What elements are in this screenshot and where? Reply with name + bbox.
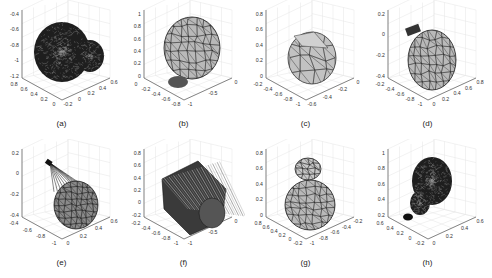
x-tick-label: -0.2: [142, 86, 151, 92]
x-tick-label: -1: [52, 240, 57, 246]
y-tick-label: 0.8: [476, 79, 483, 85]
x-tick-label: 0.4: [386, 225, 393, 231]
y-tick-label: -0.8: [319, 235, 328, 241]
x-tick-label: -0.4: [386, 86, 395, 92]
caption-a: (a): [0, 119, 123, 128]
caption-h: (h): [366, 258, 489, 267]
y-tick-label: 0.6: [476, 218, 483, 224]
y-tick-label: -0.5: [209, 229, 218, 235]
y-tick-label: -0.4: [342, 224, 351, 230]
x-tick-label: -0.2: [254, 81, 263, 87]
y-tick-label: -1: [310, 240, 315, 246]
y-tick-label: 0: [357, 79, 360, 85]
x-tick-label: 0.2: [40, 96, 47, 102]
z-tick-label: 0: [382, 31, 385, 37]
x-tick-label: -0.2: [294, 240, 303, 246]
x-tick-label: -0.4: [10, 220, 19, 226]
y-tick-label: 0.4: [95, 225, 102, 231]
subfigure-g: 0.80.60.40.200.80.60.40.20-0.2-1-0.8-0.6…: [244, 139, 367, 278]
x-tick-label: -0.8: [172, 101, 181, 107]
x-tick-label: 0.8: [10, 81, 17, 87]
x-tick-label: -0.2: [132, 220, 141, 226]
z-tick-label: 0.6: [256, 26, 263, 32]
y-tick-label: -1: [188, 101, 193, 107]
z-tick-label: 0.8: [256, 150, 263, 156]
cylinder-mesh: [162, 161, 245, 235]
x-tick-label: 0.6: [262, 224, 269, 230]
caption-g: (g): [244, 258, 367, 267]
z-tick-label: 0: [260, 212, 263, 218]
z-tick-label: -1: [14, 57, 19, 63]
z-tick-label: 0.4: [256, 42, 263, 48]
y-tick-label: -0.2: [64, 101, 73, 107]
z-tick-label: 0.8: [134, 23, 141, 29]
x-tick-label: 0.8: [254, 220, 261, 226]
y-tick-label: -0.2: [354, 218, 363, 224]
z-tick-label: 0.4: [378, 196, 385, 202]
dense-mesh: [76, 40, 105, 72]
x-tick-label: -0.8: [36, 233, 45, 239]
y-tick-label: 0: [78, 96, 81, 102]
x-tick-label: -0.4: [152, 91, 161, 97]
x-tick-label: -0.2: [416, 240, 425, 246]
z-tick-label: -0.4: [10, 11, 19, 17]
z-tick-label: 0.6: [256, 165, 263, 171]
y-tick-label: 0: [235, 79, 238, 85]
z-tick-label: 0.2: [256, 57, 263, 63]
x-tick-label: -1: [418, 101, 423, 107]
y-tick-label: -0.2: [338, 86, 347, 92]
x-tick-label: -0.8: [406, 96, 415, 102]
z-tick-label: 0.4: [256, 181, 263, 187]
z-tick-label: -0.4: [10, 212, 19, 218]
x-tick-label: -0.6: [274, 91, 283, 97]
y-tick-label: 0.4: [461, 225, 468, 231]
y-tick-label: 0: [235, 218, 238, 224]
caption-e: (e): [0, 258, 123, 267]
caption-b: (b): [122, 119, 245, 128]
mesh-tip: [403, 214, 413, 221]
z-tick-label: 1: [382, 150, 385, 156]
y-tick-label: 0.6: [110, 79, 117, 85]
subfigure-a: -0.4-0.6-0.8-1-1.20.80.60.40.20-0.200.20…: [0, 0, 123, 139]
y-tick-label: 0: [433, 101, 436, 107]
x-tick-label: 0.6: [20, 86, 27, 92]
y-tick-label: 0.2: [80, 233, 87, 239]
z-tick-label: 0.2: [256, 196, 263, 202]
y-tick-label: 0.2: [87, 90, 94, 96]
z-tick-label: 1: [138, 11, 141, 17]
y-tick-label: 0.4: [453, 90, 460, 96]
z-tick-label: 0: [260, 73, 263, 79]
z-tick-label: 0: [16, 170, 19, 176]
x-tick-label: -0.4: [142, 225, 151, 231]
x-tick-label: -0.6: [23, 227, 32, 233]
subfigure-e: 0.20-0.2-0.4-0.4-0.6-0.8-100.20.40.6(e): [0, 139, 123, 278]
z-tick-label: 0.8: [378, 165, 385, 171]
x-tick-label: 0: [53, 101, 56, 107]
y-tick-label: -0.6: [331, 229, 340, 235]
z-tick-label: 0.2: [378, 11, 385, 17]
z-tick-label: -0.2: [132, 212, 141, 218]
z-tick-label: 0.6: [134, 162, 141, 168]
x-tick-label: 0: [135, 81, 138, 87]
y-tick-label: -0.4: [323, 94, 332, 100]
x-tick-label: -0.6: [396, 91, 405, 97]
y-tick-label: 0.2: [446, 233, 453, 239]
y-tick-label: 0: [67, 240, 70, 246]
x-tick-label: 0.4: [30, 91, 37, 97]
y-tick-label: -0.5: [209, 90, 218, 96]
x-tick-label: 0.2: [396, 230, 403, 236]
z-tick-label: 0: [138, 199, 141, 205]
subfigure-h: 10.80.60.40.20.60.40.20-0.200.20.40.6(h): [366, 139, 489, 278]
subfigure-d: 0.20-0.2-0.4-0.2-0.4-0.6-0.8-100.20.40.6…: [366, 0, 489, 139]
z-tick-label: -0.4: [376, 73, 385, 79]
dense-mesh: [410, 191, 430, 215]
subfigure-b: 10.80.60.40.200-0.2-0.4-0.6-0.8-1-0.50(b…: [122, 0, 245, 139]
x-tick-label: 0.2: [278, 232, 285, 238]
x-tick-label: -0.4: [264, 86, 273, 92]
mesh-surface: [294, 157, 322, 181]
mesh-cap: [405, 24, 421, 36]
y-tick-label: -0.6: [308, 101, 317, 107]
x-tick-label: -0.6: [162, 96, 171, 102]
x-tick-label: 0.4: [270, 228, 277, 234]
caption-d: (d): [366, 119, 489, 128]
